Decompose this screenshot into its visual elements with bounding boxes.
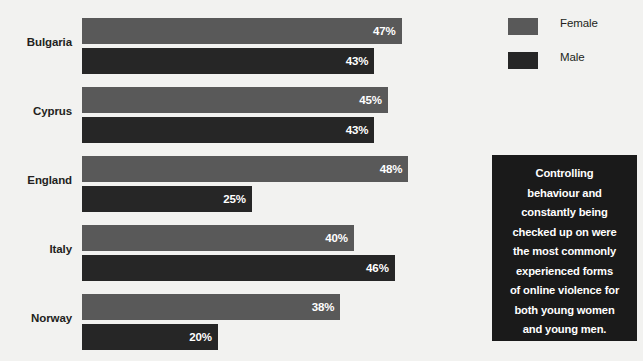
category-label: Norway bbox=[0, 312, 72, 324]
bar-value-label: 20% bbox=[189, 331, 212, 343]
bar-female-norway[interactable]: 38% bbox=[82, 294, 340, 320]
bar-male-bulgaria[interactable]: 43% bbox=[82, 48, 374, 74]
legend-swatch-male bbox=[508, 52, 538, 69]
bar-male-cyprus[interactable]: 43% bbox=[82, 117, 374, 143]
bar-male-england[interactable]: 25% bbox=[82, 186, 252, 212]
bar-value-label: 48% bbox=[380, 163, 403, 175]
bar-group: Bulgaria47%43% bbox=[0, 18, 470, 78]
category-label: England bbox=[0, 174, 72, 186]
category-label: Cyprus bbox=[0, 105, 72, 117]
legend-label-female: Female bbox=[560, 17, 598, 29]
bar-chart: Bulgaria47%43%Cyprus45%43%England48%25%I… bbox=[0, 0, 643, 361]
bar-value-label: 43% bbox=[346, 55, 369, 67]
plot-area: Bulgaria47%43%Cyprus45%43%England48%25%I… bbox=[0, 14, 470, 361]
category-label: Italy bbox=[0, 243, 72, 255]
bar-value-label: 43% bbox=[346, 124, 369, 136]
bar-female-england[interactable]: 48% bbox=[82, 156, 408, 182]
bar-value-label: 45% bbox=[359, 94, 382, 106]
bar-value-label: 47% bbox=[373, 25, 396, 37]
bar-value-label: 40% bbox=[325, 232, 348, 244]
bar-group: Cyprus45%43% bbox=[0, 87, 470, 147]
legend-label-male: Male bbox=[560, 51, 585, 63]
legend-swatch-female bbox=[508, 18, 538, 35]
bar-group: England48%25% bbox=[0, 156, 470, 216]
bar-female-bulgaria[interactable]: 47% bbox=[82, 18, 402, 44]
callout-box: Controllingbehaviour andconstantly being… bbox=[492, 155, 637, 341]
bar-group: Norway38%20% bbox=[0, 294, 470, 354]
bar-value-label: 38% bbox=[312, 301, 335, 313]
bar-value-label: 46% bbox=[366, 262, 389, 274]
callout-text: Controllingbehaviour andconstantly being… bbox=[498, 164, 631, 340]
bar-group: Italy40%46% bbox=[0, 225, 470, 285]
bar-male-norway[interactable]: 20% bbox=[82, 324, 218, 350]
bar-male-italy[interactable]: 46% bbox=[82, 255, 395, 281]
category-label: Bulgaria bbox=[0, 36, 72, 48]
bar-female-cyprus[interactable]: 45% bbox=[82, 87, 388, 113]
bar-value-label: 25% bbox=[223, 193, 246, 205]
bar-female-italy[interactable]: 40% bbox=[82, 225, 354, 251]
